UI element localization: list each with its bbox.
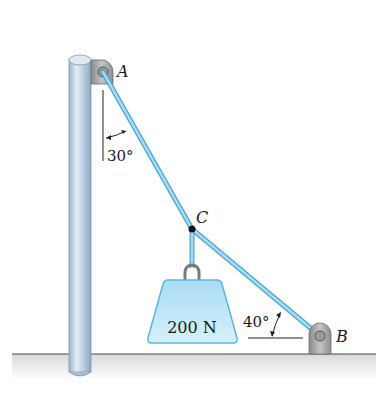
joint-c [189,226,196,233]
label-point-a: A [115,62,129,81]
label-angle-a: 30° [107,147,134,165]
label-weight: 200 N [167,318,217,337]
label-angle-b: 40° [243,313,270,331]
vertical-pole [69,55,91,376]
ground [12,354,376,380]
arrowhead-icon [270,331,275,337]
support-bracket-b [309,323,331,354]
cable-system-diagram: A C B 30° 40° 200 N [0,0,386,401]
label-point-c: C [196,208,208,227]
label-point-b: B [335,327,348,346]
